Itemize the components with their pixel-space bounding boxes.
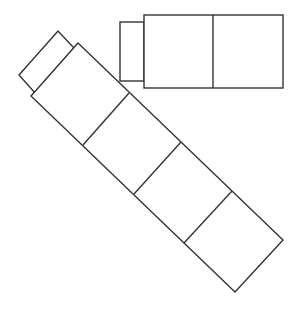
horizontal-end-tab [120,22,144,81]
diagram-canvas [0,0,302,314]
horizontal-block [120,15,283,88]
